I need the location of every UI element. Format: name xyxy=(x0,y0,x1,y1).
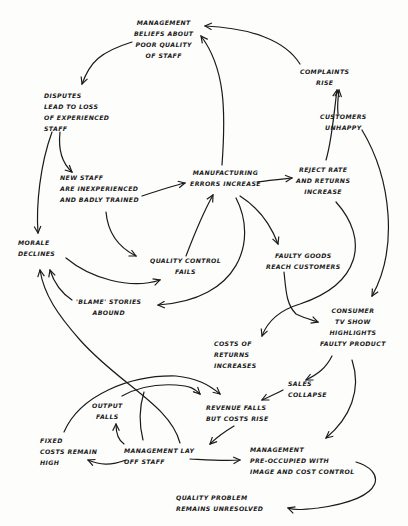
node-complaints: Complaints rise xyxy=(300,66,349,88)
node-output: Output falls xyxy=(92,400,123,422)
edge-faulty-goods-to-tv xyxy=(284,272,318,322)
edge-disputes-to-morale xyxy=(38,132,52,233)
node-revenue: Revenue falls but costs rise xyxy=(206,402,269,424)
edge-output-to-revenue xyxy=(122,385,200,396)
edge-mfg-errors-to-reject xyxy=(257,178,292,182)
node-faulty-goods: Faulty goods reach customers xyxy=(266,250,341,272)
edge-complaints-to-mgmt-beliefs xyxy=(205,26,300,64)
node-customers: Customers unhappy xyxy=(320,111,367,133)
edge-fixed-to-revenue xyxy=(64,376,220,432)
node-costs-returns: Costs of returns increases xyxy=(214,338,257,371)
node-tv-show: Consumer TV show highlights faulty produ… xyxy=(320,305,386,349)
edge-customers-to-tv xyxy=(362,130,388,296)
edge-mfg-errors-to-blame xyxy=(158,198,245,305)
node-sales: Sales collapse xyxy=(288,378,327,400)
node-blame: 'Blame' stories abound xyxy=(76,296,141,318)
edge-mfg-errors-to-mgmt-beliefs xyxy=(201,36,224,165)
edge-morale-to-qc xyxy=(66,258,160,284)
node-morale: Morale declines xyxy=(18,237,55,259)
edge-blame-to-morale xyxy=(50,270,72,300)
edge-layoff-to-output xyxy=(116,424,124,444)
node-fixed-costs: Fixed costs remain high xyxy=(40,435,97,468)
edge-layoff-to-preoccupied xyxy=(190,459,240,460)
edge-mfg-errors-to-faulty-goods xyxy=(240,196,278,244)
node-disputes: Disputes lead to loss of experienced sta… xyxy=(44,90,109,134)
node-mfg-errors: Manufacturing errors increase xyxy=(190,167,261,189)
edge-qc-to-mfg-errors xyxy=(186,195,213,256)
edge-layoff-trunk xyxy=(140,392,144,440)
edge-disputes-to-new-staff xyxy=(60,132,73,172)
node-qc-fails: Quality control fails xyxy=(150,255,221,277)
edge-revenue-to-layoff xyxy=(210,426,234,444)
edge-sales-to-revenue xyxy=(262,390,283,400)
node-preoccupied: Management pre-occupied with image and c… xyxy=(250,444,355,477)
edge-mgmt-beliefs-to-disputes xyxy=(82,42,132,84)
node-reject-rate: Reject rate and returns increase xyxy=(296,164,350,197)
node-mgmt-beliefs: Management beliefs about poor quality of… xyxy=(134,17,193,61)
causal-loop-diagram: Management beliefs about poor quality of… xyxy=(0,0,408,526)
edge-new-staff-to-qc xyxy=(106,212,136,256)
edge-tv-to-sales xyxy=(306,356,332,380)
node-unresolved: Quality problem remains unresolved xyxy=(176,492,263,514)
node-new-staff: New staff are inexperienced and badly tr… xyxy=(60,172,139,205)
node-layoff: Management lay off staff xyxy=(124,445,194,467)
edge-new-staff-to-mfg-errors xyxy=(142,183,185,196)
edge-tv-to-preoccupied xyxy=(326,360,356,438)
